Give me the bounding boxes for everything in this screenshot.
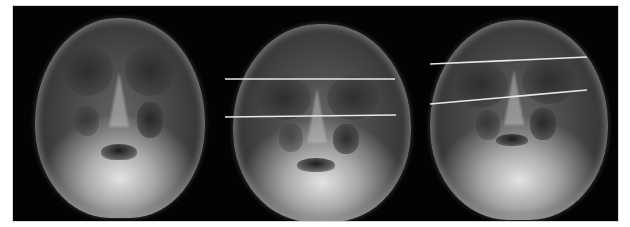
- orbit-right: [125, 46, 175, 96]
- reference-lines: [215, 6, 422, 221]
- radiograph-panel-3: [422, 6, 618, 221]
- reference-line-lower: [430, 90, 587, 104]
- oral-cavity: [101, 144, 137, 160]
- nasal-septum: [109, 72, 129, 127]
- orbit-left: [63, 46, 113, 96]
- maxillary-sinus: [75, 106, 99, 136]
- reference-line-lower: [225, 115, 396, 117]
- radiograph-panel-1: [13, 6, 215, 221]
- radiograph-panel-2: [215, 6, 422, 221]
- maxillary-sinus: [137, 102, 163, 138]
- reference-lines: [422, 6, 618, 221]
- radiograph-strip: [13, 6, 618, 221]
- reference-line-upper: [430, 57, 587, 64]
